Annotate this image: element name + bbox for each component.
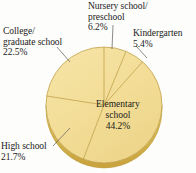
slice-label-elementary-line1: Elementary (96, 99, 140, 109)
slice-value-highschool: 21.7% (1, 152, 47, 163)
slice-label-nursery-line2: preschool (88, 12, 124, 22)
slice-label-highschool-line1: High school (1, 141, 47, 151)
slice-label-nursery-line1: Nursery school/ (88, 1, 148, 11)
pie-chart-figure: Nursery school/ preschool 6.2% Kindergar… (0, 0, 196, 173)
slice-label-college: College/ graduate school 22.5% (3, 26, 62, 58)
slice-label-highschool: High school 21.7% (1, 141, 47, 162)
slice-value-kindergarten: 5.4% (133, 39, 182, 50)
slice-label-college-line1: College/ (3, 26, 35, 36)
slice-label-kindergarten: Kindergarten 5.4% (133, 28, 182, 49)
slice-label-kindergarten-line1: Kindergarten (133, 28, 182, 38)
slice-label-elementary: Elementary school 44.2% (96, 99, 140, 131)
slice-value-elementary: 44.2% (106, 121, 131, 131)
slice-value-college: 22.5% (3, 47, 62, 58)
slice-label-college-line2: graduate school (3, 37, 62, 47)
slice-label-elementary-line2: school (105, 110, 130, 120)
